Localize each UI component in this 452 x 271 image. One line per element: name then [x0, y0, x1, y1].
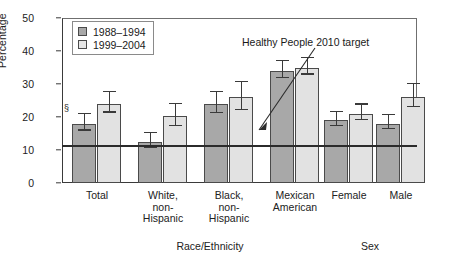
error-bar-cap-bottom — [407, 106, 420, 107]
legend-swatch-icon-1999-2004 — [78, 40, 87, 49]
y-tick-label-20: 20 — [0, 111, 34, 123]
error-bar — [175, 104, 176, 125]
error-bar-cap-top — [144, 132, 157, 133]
y-tick-mark-10 — [56, 149, 61, 150]
legend-swatch-icon-1988-1994 — [78, 27, 87, 36]
y-tick-mark-50 — [56, 17, 61, 18]
error-bar-cap-bottom — [330, 125, 343, 126]
error-bar — [216, 92, 217, 113]
x-tick-label-line: Male — [361, 190, 441, 202]
legend-label-1988-1994: 1988–1994 — [93, 26, 146, 38]
x-tick-label: Male — [361, 190, 441, 202]
error-bar-cap-top — [407, 83, 420, 84]
error-bar — [84, 114, 85, 131]
error-bar-cap-bottom — [78, 129, 91, 130]
bar — [163, 116, 187, 183]
significance-marker: § — [64, 103, 69, 113]
x-tick-label-line: American — [255, 202, 335, 214]
chart-legend: 1988–1994 1999–2004 — [72, 21, 154, 55]
error-bar-cap-top — [210, 91, 223, 92]
healthy-people-target-line — [62, 145, 417, 147]
bar — [324, 120, 348, 183]
legend-label-1999-2004: 1999–2004 — [93, 39, 146, 51]
bar — [204, 104, 228, 183]
error-bar-cap-top — [382, 114, 395, 115]
error-bar-cap-bottom — [382, 128, 395, 129]
bar: § — [72, 124, 96, 183]
error-bar-cap-bottom — [210, 112, 223, 113]
error-bar — [241, 82, 242, 110]
bar — [401, 97, 425, 183]
y-tick-label-0: 0 — [0, 177, 34, 189]
error-bar-cap-top — [78, 113, 91, 114]
bar — [376, 124, 400, 183]
error-bar-cap-top — [330, 111, 343, 112]
error-bar-cap-bottom — [355, 119, 368, 120]
bar — [349, 114, 373, 183]
error-bar-cap-bottom — [169, 125, 182, 126]
error-bar-cap-top — [103, 91, 116, 92]
bar — [97, 104, 121, 183]
x-axis-title-sex: Sex — [330, 240, 410, 252]
target-annotation-arrow — [245, 46, 325, 141]
legend-item-1988-1994: 1988–1994 — [78, 25, 146, 38]
legend-item-1999-2004: 1999–2004 — [78, 38, 146, 51]
error-bar-cap-bottom — [103, 111, 116, 112]
chart-figure: Percentage 50 40 30 20 10 0 § Healthy Pe… — [0, 0, 452, 271]
error-bar — [413, 84, 414, 107]
bar — [138, 142, 162, 183]
y-tick-mark-20 — [56, 116, 61, 117]
error-bar-cap-top — [355, 103, 368, 104]
error-bar-cap-top — [169, 103, 182, 104]
x-tick-label-line: Hispanic — [189, 213, 269, 225]
y-tick-label-40: 40 — [0, 45, 34, 57]
error-bar — [109, 92, 110, 112]
y-tick-mark-30 — [56, 83, 61, 84]
y-tick-label-50: 50 — [0, 12, 34, 24]
y-tick-mark-40 — [56, 50, 61, 51]
y-tick-mark-0 — [56, 182, 61, 183]
y-tick-label-10: 10 — [0, 144, 34, 156]
y-tick-label-30: 30 — [0, 78, 34, 90]
error-bar-cap-bottom — [144, 147, 157, 148]
x-axis-title-race-ethnicity: Race/Ethnicity — [150, 240, 270, 252]
